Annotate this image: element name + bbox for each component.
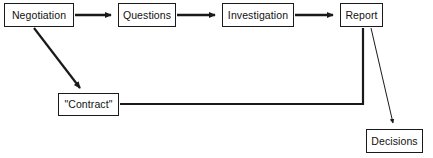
node-decisions-label: Decisions xyxy=(371,136,417,147)
node-questions-label: Questions xyxy=(123,10,171,21)
node-contract[interactable]: "Contract" xyxy=(58,93,119,116)
node-investigation[interactable]: Investigation xyxy=(222,3,294,27)
edge-negotiation-to-contract xyxy=(34,28,80,88)
edge-report-to-contract xyxy=(120,28,363,104)
node-contract-label: "Contract" xyxy=(64,99,112,110)
flowchart-diagram: Negotiation Questions Investigation Repo… xyxy=(0,0,433,158)
node-negotiation-label: Negotiation xyxy=(12,10,66,21)
node-negotiation[interactable]: Negotiation xyxy=(4,3,74,27)
node-investigation-label: Investigation xyxy=(228,10,288,21)
node-report[interactable]: Report xyxy=(340,3,383,27)
node-report-label: Report xyxy=(345,10,377,21)
node-questions[interactable]: Questions xyxy=(118,3,176,27)
node-decisions[interactable]: Decisions xyxy=(366,129,423,153)
edge-report-to-decisions xyxy=(371,28,393,123)
